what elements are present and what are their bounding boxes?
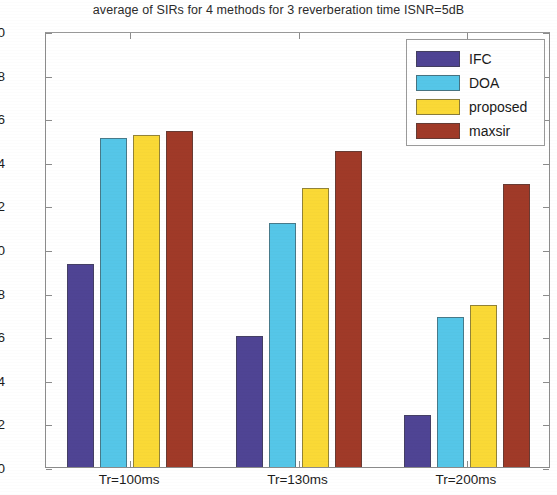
y-axis-tick [46, 338, 52, 339]
y-axis-tick-right [543, 251, 549, 252]
bar-ifc-tr-200ms [404, 415, 431, 467]
y-axis-tick-label: 10 [0, 243, 5, 258]
y-axis-tick [46, 77, 52, 78]
bar-doa-tr-130ms [269, 223, 296, 467]
legend-entry-maxsir[interactable]: maxsir [407, 119, 544, 143]
y-axis-tick [46, 425, 52, 426]
y-axis-tick [46, 164, 52, 165]
y-axis-tick-label: 0 [0, 461, 5, 476]
y-axis-tick-right [543, 382, 549, 383]
y-axis-tick-label: 12 [0, 199, 5, 214]
x-axis-tick-label: Tr=100ms [99, 472, 160, 487]
legend-entry-doa[interactable]: DOA [407, 71, 544, 95]
figure-canvas: average of SIRs for 4 methods for 3 reve… [0, 0, 557, 495]
y-axis-tick-label: 2 [0, 417, 5, 432]
y-axis-tick-right [543, 33, 549, 34]
y-axis-tick [46, 207, 52, 208]
x-axis-tick-label: Tr=200ms [436, 472, 497, 487]
bar-ifc-tr-130ms [236, 336, 263, 467]
x-axis-tick-top [130, 33, 131, 39]
y-axis-tick-label: 6 [0, 330, 5, 345]
bar-maxsir-tr-130ms [335, 151, 362, 467]
x-axis-tick [130, 461, 131, 467]
y-axis-tick [46, 469, 52, 470]
legend-label: DOA [469, 75, 499, 91]
legend-swatch-maxsir [416, 123, 460, 139]
y-axis-tick-label: 20 [0, 25, 5, 40]
legend-swatch-ifc [416, 51, 460, 67]
bar-doa-tr-200ms [437, 317, 464, 467]
y-axis-tick-label: 4 [0, 373, 5, 388]
y-axis-tick-right [543, 164, 549, 165]
y-axis-tick [46, 33, 52, 34]
legend-swatch-doa [416, 75, 460, 91]
chart-title: average of SIRs for 4 methods for 3 reve… [0, 3, 557, 17]
y-axis-tick-label: 16 [0, 112, 5, 127]
legend-entry-proposed[interactable]: proposed [407, 95, 544, 119]
y-axis-tick-right [543, 469, 549, 470]
bar-maxsir-tr-100ms [166, 131, 193, 467]
y-axis-tick [46, 382, 52, 383]
legend-label: proposed [469, 99, 527, 115]
x-axis-tick [467, 461, 468, 467]
x-axis-tick-label: Tr=130ms [267, 472, 328, 487]
y-axis-tick-label: 8 [0, 286, 5, 301]
bar-proposed-tr-130ms [302, 188, 329, 467]
y-axis-tick-right [543, 207, 549, 208]
y-axis-tick [46, 120, 52, 121]
x-axis-tick-top [299, 33, 300, 39]
chart-legend: IFCDOAproposedmaxsir [406, 39, 545, 146]
legend-label: IFC [469, 51, 492, 67]
x-axis-tick [299, 461, 300, 467]
y-axis-tick [46, 251, 52, 252]
bar-proposed-tr-200ms [470, 305, 497, 467]
legend-entry-ifc[interactable]: IFC [407, 47, 544, 71]
bar-proposed-tr-100ms [133, 135, 160, 467]
legend-swatch-proposed [416, 99, 460, 115]
y-axis-tick-right [543, 338, 549, 339]
bar-doa-tr-100ms [100, 138, 127, 467]
y-axis-tick [46, 295, 52, 296]
y-axis-tick-right [543, 425, 549, 426]
y-axis-tick-right [543, 295, 549, 296]
y-axis-tick-label: 18 [0, 68, 5, 83]
y-axis-tick-label: 14 [0, 155, 5, 170]
bar-ifc-tr-100ms [67, 264, 94, 467]
legend-label: maxsir [469, 123, 510, 139]
bar-maxsir-tr-200ms [503, 184, 530, 467]
